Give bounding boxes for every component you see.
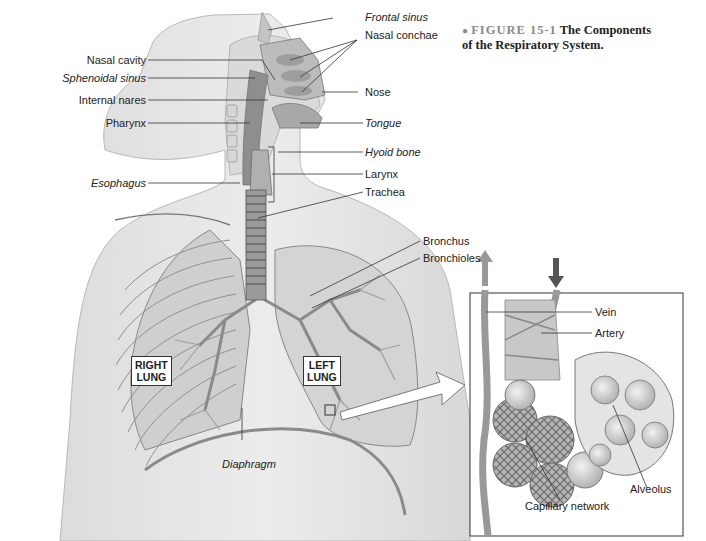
label-pharynx: Pharynx — [106, 117, 146, 129]
left-lung-line1: LEFT — [307, 359, 337, 371]
right-lung-tag: RIGHT LUNG — [131, 356, 172, 386]
label-trachea: Trachea — [365, 186, 405, 198]
trachea — [246, 190, 266, 300]
label-frontal-sinus: Frontal sinus — [365, 11, 428, 23]
label-larynx: Larynx — [365, 168, 398, 180]
caption-bullet-icon: ● — [462, 25, 468, 36]
label-nose: Nose — [365, 86, 391, 98]
label-artery: Artery — [595, 327, 624, 339]
label-esophagus: Esophagus — [91, 177, 146, 189]
label-alveolus: Alveolus — [630, 483, 672, 495]
label-bronchioles: Bronchioles — [423, 252, 480, 264]
left-lung-line2: LUNG — [307, 371, 337, 383]
right-lung-line2: LUNG — [135, 371, 168, 383]
label-bronchus: Bronchus — [423, 235, 469, 247]
label-diaphragm: Diaphragm — [222, 458, 276, 470]
label-nasal-conchae: Nasal conchae — [365, 29, 438, 41]
down-arrow-icon — [548, 258, 564, 288]
label-vein: Vein — [595, 306, 616, 318]
label-internal-nares: Internal nares — [79, 94, 146, 106]
label-nasal-cavity: Nasal cavity — [87, 54, 146, 66]
label-tongue: Tongue — [365, 117, 401, 129]
right-lung-line1: RIGHT — [135, 359, 168, 371]
label-capillary-network: Capillary network — [525, 500, 609, 512]
label-hyoid-bone: Hyoid bone — [365, 146, 421, 158]
figure-number: FIGURE 15-1 — [471, 23, 557, 37]
figure-caption: ● FIGURE 15-1 The Components of the Resp… — [462, 23, 662, 53]
respiratory-figure: ● FIGURE 15-1 The Components of the Resp… — [0, 0, 706, 541]
left-lung-tag: LEFT LUNG — [303, 356, 341, 386]
label-sphenoidal-sinus: Sphenoidal sinus — [62, 72, 146, 84]
